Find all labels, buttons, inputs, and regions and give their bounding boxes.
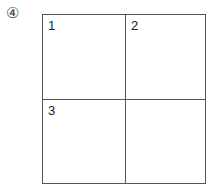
four-cell-grid: 1 2 3: [42, 14, 206, 184]
horizontal-divider: [43, 99, 205, 100]
cell-3-number: 3: [48, 103, 55, 118]
option-label: ④: [6, 4, 19, 22]
cell-1-number: 1: [48, 18, 55, 33]
cell-2-number: 2: [131, 18, 138, 33]
